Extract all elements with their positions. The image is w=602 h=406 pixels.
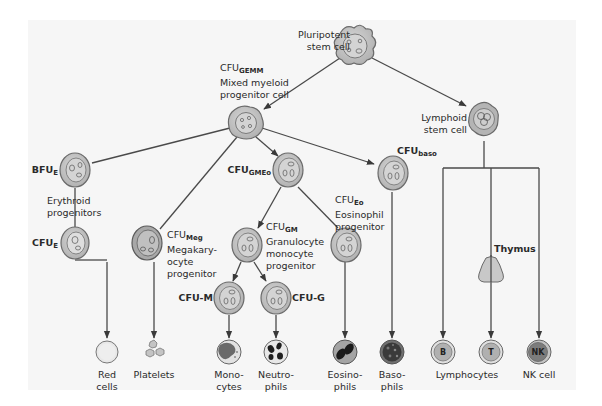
- cfu-m-label: CFU-M: [178, 292, 213, 304]
- cfu-gm-label: CFUGM Granulocyte monocyte progenitor: [266, 221, 324, 272]
- lymphocytes-caption: Lymphocytes: [436, 369, 499, 381]
- thymus-organ: [479, 255, 504, 282]
- nk-cell-caption: NK cell: [523, 369, 556, 381]
- cfu-meg-label: CFUMeg Megakary- ocyte progenitor: [167, 229, 217, 280]
- cfu-gemm-label: CFUGEMM Mixed myeloid progenitor cell: [220, 62, 289, 101]
- neutrophils-caption: Neutro- phils: [258, 369, 294, 393]
- monocyte-cell: [217, 340, 241, 364]
- cfu-e-cell: [61, 227, 89, 259]
- cfu-eo-cell: [331, 228, 361, 262]
- red-cell: [96, 341, 118, 363]
- cfu-e-label: CFUE: [32, 237, 58, 252]
- cfu-meg-cell: [132, 226, 162, 260]
- cfu-gmeo-label: CFUGMEo: [228, 164, 272, 179]
- pluripotent-label: Pluripotent stem cell: [298, 29, 350, 53]
- basophils-caption: Baso- phils: [379, 369, 406, 393]
- platelets-caption: Platelets: [134, 369, 175, 381]
- cfu-eo-label: CFUEo Eosinophil progenitor: [335, 194, 385, 233]
- platelets: [146, 340, 164, 357]
- cfu-gemm-cell: [228, 106, 263, 139]
- bfu-e-cell: [60, 153, 90, 187]
- cfu-g-cell: [261, 282, 291, 314]
- eosinophil-cell: [333, 340, 357, 364]
- neutrophil-cell: [264, 340, 288, 364]
- monocytes-caption: Mono- cytes: [214, 369, 243, 393]
- cfu-baso-label: CFUbaso: [397, 145, 437, 160]
- cfu-m-cell: [214, 282, 244, 314]
- red-cells-caption: Red cells: [96, 369, 117, 393]
- cfu-g-label: CFU-G: [292, 292, 325, 304]
- cfu-baso-cell: [378, 156, 408, 190]
- cfu-gm-cell: [232, 228, 262, 262]
- basophil-cell: [380, 340, 404, 364]
- erythroid-progenitors-label: Erythroid progenitors: [47, 195, 101, 219]
- t-cell-label: T: [488, 348, 493, 357]
- lymphoid-stem-cell-label: Lymphoid stem cell: [421, 112, 467, 136]
- bfu-e-label: BFUE: [32, 164, 58, 179]
- eosinophils-caption: Eosino- phils: [328, 369, 363, 393]
- lymphoid-stem-cell: [469, 102, 499, 135]
- cfu-gmeo-cell: [273, 153, 303, 187]
- thymus-label: Thymus: [494, 243, 536, 255]
- nk-cell-label: NK: [532, 348, 545, 357]
- b-cell-label: B: [440, 348, 446, 357]
